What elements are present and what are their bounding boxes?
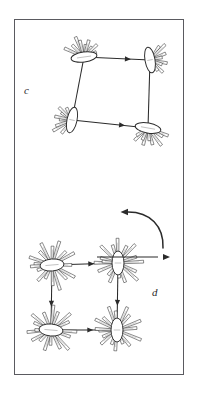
panel-label-d: d [152, 287, 158, 298]
figure-root: c d [0, 0, 197, 394]
panel-d: d [0, 0, 197, 394]
